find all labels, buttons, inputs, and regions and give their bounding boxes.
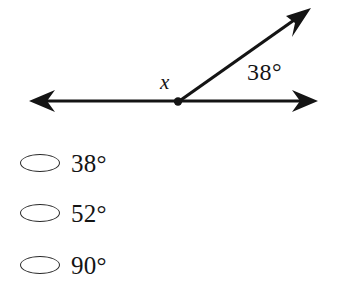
vertex-point bbox=[174, 97, 182, 105]
answer-option-3-label: 90° bbox=[71, 253, 107, 278]
answer-option-3[interactable]: 90° bbox=[20, 250, 107, 280]
answer-options-list: 38° 52° 90° bbox=[0, 140, 342, 308]
answer-option-1-label: 38° bbox=[71, 151, 107, 176]
radio-oval-icon[interactable] bbox=[20, 256, 60, 274]
radio-oval-icon[interactable] bbox=[20, 204, 60, 222]
angle-diagram-svg bbox=[0, 0, 342, 140]
angle-diagram: x 38° bbox=[0, 0, 342, 140]
radio-oval-icon[interactable] bbox=[20, 154, 60, 172]
unknown-angle-label: x bbox=[160, 72, 169, 93]
answer-option-2[interactable]: 52° bbox=[20, 198, 107, 228]
answer-option-2-label: 52° bbox=[71, 201, 107, 226]
answer-option-1[interactable]: 38° bbox=[20, 148, 107, 178]
question-figure-page: x 38° 38° 52° 90° bbox=[0, 0, 342, 308]
known-angle-label: 38° bbox=[247, 60, 282, 84]
